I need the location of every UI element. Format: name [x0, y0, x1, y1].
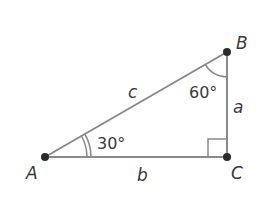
side-label-b: b — [137, 165, 148, 185]
vertex-c-dot — [223, 153, 231, 161]
side-c — [45, 52, 227, 157]
angle-label-a: 30° — [97, 134, 125, 153]
angle-arc-b — [205, 65, 227, 78]
vertex-label-c: C — [231, 163, 243, 183]
triangle-diagram: B A C c a b 60° 30° — [0, 0, 267, 197]
vertex-label-b: B — [236, 33, 248, 53]
angle-label-b: 60° — [189, 83, 217, 102]
vertex-b-dot — [223, 48, 231, 56]
vertex-label-a: A — [25, 163, 38, 183]
side-label-a: a — [233, 97, 243, 117]
side-label-c: c — [128, 82, 138, 102]
angle-arc-a-inner — [81, 136, 87, 157]
vertex-a-dot — [41, 153, 49, 161]
